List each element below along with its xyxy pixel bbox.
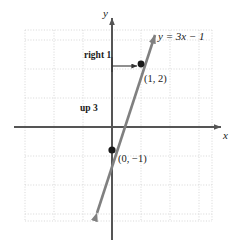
run-label: right 1 <box>84 51 111 61</box>
equation-label: y = 3x − 1 <box>158 31 205 42</box>
rise-label: up 3 <box>80 104 98 114</box>
point-1-2 <box>138 61 145 68</box>
grid-lines <box>25 30 212 221</box>
x-axis-label: x <box>223 130 228 141</box>
graph-figure: y x y = 3x − 1 (1, 2) (0, −1) right 1 up… <box>0 0 237 247</box>
y-axis-label: y <box>103 8 108 19</box>
function-line <box>97 35 155 213</box>
point-label-0-neg1: (0, −1) <box>118 154 147 165</box>
point-0-neg1 <box>108 146 115 153</box>
point-label-1-2: (1, 2) <box>144 74 167 85</box>
